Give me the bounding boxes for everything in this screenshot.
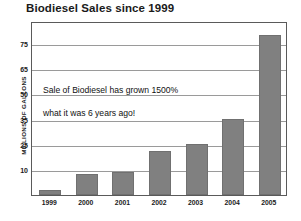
x-axis-tick-label: 2003 [188, 199, 203, 206]
y-axis-tick-label: 35 [2, 116, 28, 123]
chart-title: Biodiesel Sales since 1999 [26, 2, 174, 14]
gridline [32, 70, 286, 71]
x-axis-tick-label: 2002 [151, 199, 166, 206]
gridline [32, 146, 286, 147]
gridline [32, 121, 286, 122]
x-axis-tick-label: 2005 [261, 199, 276, 206]
gridline [32, 45, 286, 46]
bar-2000 [76, 174, 98, 195]
annotation-line-1: Sale of Biodiesel has grown 1500% [43, 85, 178, 95]
x-axis-tick-label: 1999 [42, 199, 57, 206]
bar-1999 [39, 190, 61, 195]
chart-annotation: Sale of Biodiesel has grown 1500% what i… [43, 73, 178, 119]
bar-2001 [112, 172, 134, 195]
chart-container: Biodiesel Sales since 1999 MILLIONS OF G… [0, 0, 301, 221]
x-axis-tick-label: 2000 [78, 199, 93, 206]
x-axis-tick-label: 2004 [225, 199, 240, 206]
bar-2003 [186, 144, 208, 195]
y-axis-tick-label: 25 [2, 141, 28, 148]
y-axis-tick-label: 50 [2, 91, 28, 98]
bar-2002 [149, 151, 171, 195]
y-axis-tick-label: 75 [2, 41, 28, 48]
y-axis-tick-label: 65 [2, 66, 28, 73]
annotation-line-2: what it was 6 years ago! [43, 108, 135, 118]
y-axis-tick-labels: 756550352510 [0, 22, 28, 196]
x-axis-tick-labels: 1999200020012002200320042005 [31, 199, 287, 217]
y-axis-tick-label: 10 [2, 167, 28, 174]
x-axis-tick-label: 2001 [115, 199, 130, 206]
bar-2005 [259, 35, 281, 195]
bar-2004 [222, 119, 244, 195]
